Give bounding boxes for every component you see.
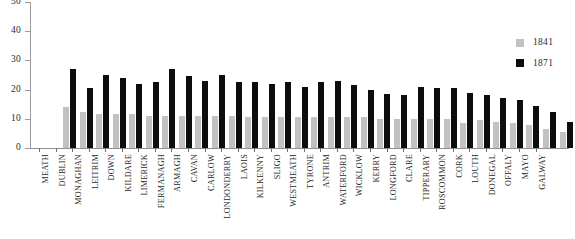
x-axis-tick-label: SLIGO [274, 154, 282, 238]
bar-1871 [401, 95, 407, 148]
x-axis-tick-label: KILKENNY [257, 154, 265, 238]
bar-1871 [335, 81, 341, 148]
bar-1841 [96, 114, 102, 148]
x-axis-tick [353, 148, 354, 152]
x-axis-tick-label: KERRY [373, 154, 381, 238]
bar-1841 [311, 117, 317, 148]
y-axis-tick-label: 40 [0, 26, 21, 36]
x-axis-tick [188, 148, 189, 152]
legend-swatch-icon [516, 39, 524, 47]
bar-group [161, 2, 178, 148]
legend-item[interactable]: 1871 [516, 59, 553, 69]
bar-1871 [384, 94, 390, 148]
bar-group [145, 2, 162, 148]
y-axis-tick [25, 148, 31, 149]
x-axis-tick [271, 148, 272, 152]
x-axis-tick-label: DUBLIN [59, 154, 67, 238]
x-axis-tick-label: WICKLOW [356, 154, 364, 238]
x-axis-tick [155, 148, 156, 152]
bar-1841 [229, 116, 235, 148]
bar-group [112, 2, 129, 148]
x-axis-tick-label: ROSCOMMON [439, 154, 447, 238]
bar-1871 [368, 90, 374, 148]
bar-1841 [377, 119, 383, 148]
bar-1841 [460, 123, 466, 148]
bar-1871 [202, 81, 208, 148]
y-axis-tick-label: 10 [0, 114, 21, 124]
chart-legend: 18411871 [516, 38, 553, 79]
bar-1841 [361, 117, 367, 148]
bar-1871 [533, 106, 539, 148]
bar-group [261, 2, 278, 148]
x-axis-tick [122, 148, 123, 152]
y-axis-tick-label: 20 [0, 85, 21, 95]
bar-group [211, 2, 228, 148]
x-axis-tick [304, 148, 305, 152]
bar-1871 [136, 84, 142, 148]
bar-1871 [87, 88, 93, 148]
plot-area [31, 2, 569, 148]
x-axis-tick [486, 148, 487, 152]
bar-1871 [186, 76, 192, 148]
x-axis-tick-label: MAYO [522, 154, 530, 238]
x-axis-tick [337, 148, 338, 152]
x-axis-tick [39, 148, 40, 152]
bar-group [393, 2, 410, 148]
x-axis-tick [287, 148, 288, 152]
x-axis-tick [238, 148, 239, 152]
x-axis-tick [502, 148, 503, 152]
x-axis-tick-label: LIMERICK [141, 154, 149, 238]
bar-1871 [418, 87, 424, 148]
x-axis-tick-label: CORK [456, 154, 464, 238]
bar-1871 [351, 85, 357, 148]
x-axis-tick [387, 148, 388, 152]
bar-1871 [434, 88, 440, 148]
bar-group [178, 2, 195, 148]
bar-1841 [394, 119, 400, 148]
bar-1841 [212, 116, 218, 148]
x-axis-tick-label: WATERFORD [340, 154, 348, 238]
bar-1871 [318, 82, 324, 148]
x-axis-tick-label: FERMANAGH [158, 154, 166, 238]
bar-group [559, 2, 575, 148]
x-axis-tick-label: ARMAGH [174, 154, 182, 238]
x-axis-tick [89, 148, 90, 152]
bar-1841 [162, 116, 168, 148]
bar-1871 [153, 82, 159, 148]
x-axis-tick-label: CLARE [406, 154, 414, 238]
bar-1871 [567, 122, 573, 148]
bar-group [79, 2, 96, 148]
bar-1871 [103, 75, 109, 148]
bar-1841 [328, 117, 334, 148]
bar-group [327, 2, 344, 148]
x-axis-tick [370, 148, 371, 152]
bar-1841 [129, 114, 135, 148]
bar-1841 [510, 123, 516, 148]
x-axis-tick [403, 148, 404, 152]
bar-1871 [219, 75, 225, 148]
bar-1841 [63, 107, 69, 148]
x-axis-tick-label: ANTRIM [323, 154, 331, 238]
x-axis-line [30, 148, 569, 149]
bar-1841 [245, 117, 251, 148]
bar-1871 [484, 95, 490, 148]
bar-1871 [451, 88, 457, 148]
bar-1841 [427, 119, 433, 148]
x-axis-tick-label: WESTMEATH [290, 154, 298, 238]
legend-label: 1871 [533, 59, 553, 69]
y-axis-tick-label: 0 [0, 143, 21, 153]
legend-item[interactable]: 1841 [516, 38, 553, 48]
bar-1871 [120, 78, 126, 148]
bar-1841 [146, 116, 152, 148]
bar-group [95, 2, 112, 148]
y-axis-tick-label: 50 [0, 0, 21, 7]
bar-group [128, 2, 145, 148]
bar-group [410, 2, 427, 148]
x-axis-tick [205, 148, 206, 152]
x-axis-tick-label: LEITRIM [92, 154, 100, 238]
x-axis-tick-label: MEATH [42, 154, 50, 238]
x-axis-tick-label: CAVAN [191, 154, 199, 238]
x-axis-tick-label: MONAGHAN [75, 154, 83, 238]
bar-group [459, 2, 476, 148]
